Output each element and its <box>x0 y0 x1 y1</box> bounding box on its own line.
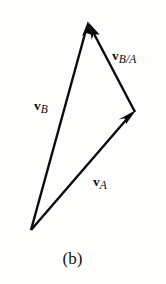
label-vba-symbol: v <box>112 48 119 63</box>
label-vb-subscript: B <box>41 103 48 115</box>
label-vector-vba: vB/A <box>112 48 136 66</box>
label-vb-symbol: v <box>34 98 41 113</box>
vector-vb <box>31 21 92 230</box>
vector-vba-shaft <box>93 31 136 112</box>
label-va-subscript: A <box>100 179 107 191</box>
figure-caption: (b) <box>0 250 145 267</box>
label-va-symbol: v <box>93 174 100 189</box>
label-vector-vb: vB <box>34 98 48 116</box>
vector-vba <box>88 22 135 112</box>
vector-va-arrowhead <box>119 110 136 124</box>
vector-canvas <box>0 0 166 284</box>
vector-diagram-figure: vB vB/A vA (b) <box>0 0 166 284</box>
label-vba-subscript: B/A <box>119 53 137 65</box>
label-vector-va: vA <box>93 174 107 192</box>
